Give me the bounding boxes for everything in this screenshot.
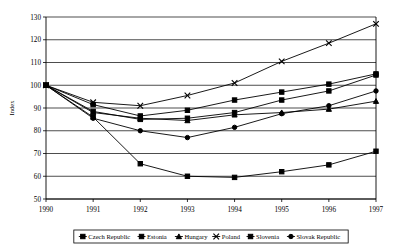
data-point-marker xyxy=(280,98,284,102)
data-point-marker xyxy=(138,114,142,118)
data-point-marker xyxy=(280,170,284,174)
data-point-marker xyxy=(279,59,285,65)
y-tick-label: 50 xyxy=(34,196,42,204)
data-point-marker xyxy=(185,174,189,178)
y-axis-title-text: Index xyxy=(8,100,15,116)
data-point-marker xyxy=(327,104,331,108)
legend-label: Hungary xyxy=(184,233,208,240)
chart-container: 5060708090100110120130 19901991199219931… xyxy=(0,0,394,251)
y-axis-title: Index xyxy=(8,100,15,116)
data-point-marker xyxy=(327,82,331,86)
y-tick-label: 120 xyxy=(30,36,41,44)
series-estonia xyxy=(44,83,378,180)
y-tick-label: 100 xyxy=(30,82,41,90)
data-point-marker xyxy=(138,162,142,166)
legend-label: Slovenia xyxy=(256,233,279,240)
data-point-marker xyxy=(232,125,236,129)
line-chart: 5060708090100110120130 19901991199219931… xyxy=(0,0,394,251)
x-tick-label: 1996 xyxy=(322,206,337,214)
y-tick-label: 130 xyxy=(30,14,41,22)
data-point-marker xyxy=(44,83,48,87)
data-point-marker xyxy=(327,163,331,167)
x-tick-label: 1995 xyxy=(275,206,290,214)
data-point-marker xyxy=(327,89,331,93)
chart-legend[interactable]: Czech RepublicEstoniaHungaryPolandSloven… xyxy=(74,230,348,243)
y-tick-label: 70 xyxy=(34,150,42,158)
data-series xyxy=(43,21,379,180)
x-tick-label: 1992 xyxy=(133,206,148,214)
legend-item-estonia[interactable]: Estonia xyxy=(138,233,167,240)
data-point-marker xyxy=(374,72,378,76)
data-point-marker xyxy=(91,102,95,106)
y-tick-label: 90 xyxy=(34,105,42,113)
legend-item-slovenia[interactable]: Slovenia xyxy=(247,233,280,240)
y-tick-label: 60 xyxy=(34,173,42,181)
y-tick-label: 110 xyxy=(30,59,41,67)
data-point-marker xyxy=(373,99,378,104)
data-point-marker xyxy=(280,90,284,94)
data-point-marker xyxy=(374,149,378,153)
data-point-marker xyxy=(280,111,284,115)
data-point-marker xyxy=(232,175,236,179)
data-point-marker xyxy=(185,135,189,139)
x-tick-label: 1990 xyxy=(39,206,54,214)
legend-marker xyxy=(81,234,85,238)
data-point-marker xyxy=(232,98,236,102)
data-point-marker xyxy=(138,129,142,133)
data-point-marker xyxy=(185,108,189,112)
legend-marker xyxy=(248,234,252,238)
series-poland xyxy=(43,21,379,109)
data-point-marker xyxy=(374,89,378,93)
legend-label: Poland xyxy=(222,233,241,240)
data-point-marker xyxy=(91,116,95,120)
x-tick-label: 1993 xyxy=(180,206,195,214)
data-point-marker xyxy=(326,40,332,46)
y-axis-ticks: 5060708090100110120130 xyxy=(30,14,46,204)
legend-marker xyxy=(289,234,293,238)
x-axis-ticks: 19901991199219931994199519961997 xyxy=(39,199,384,214)
legend-label: Czech Republic xyxy=(88,233,130,240)
x-tick-label: 1991 xyxy=(86,206,101,214)
legend-marker xyxy=(139,234,143,238)
y-tick-label: 80 xyxy=(34,127,42,135)
x-tick-label: 1994 xyxy=(227,206,242,214)
legend-label: Estonia xyxy=(147,233,167,240)
legend-label: Slovak Republic xyxy=(296,233,340,240)
x-tick-label: 1997 xyxy=(369,206,384,214)
